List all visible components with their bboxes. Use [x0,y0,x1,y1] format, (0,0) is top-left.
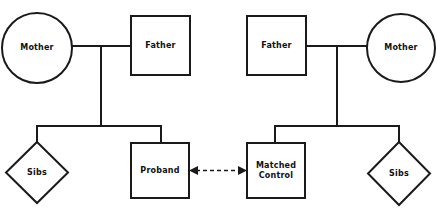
pedigree-canvas [0,0,437,211]
node-right-control-shape[interactable] [247,143,305,198]
proband-control-link-arrowhead-right [238,166,247,175]
node-right-father-shape[interactable] [247,16,306,75]
node-right-sibs-shape[interactable] [368,142,430,205]
pedigree-diagram: Mother Father Sibs Proband Father Mother… [0,0,437,211]
node-left-mother-shape[interactable] [2,13,72,83]
node-left-proband-shape[interactable] [131,143,189,198]
proband-control-link-arrowhead-left [189,166,198,175]
node-left-father-shape[interactable] [131,16,190,75]
node-right-mother-shape[interactable] [367,14,435,82]
node-left-sibs-shape[interactable] [6,142,68,203]
